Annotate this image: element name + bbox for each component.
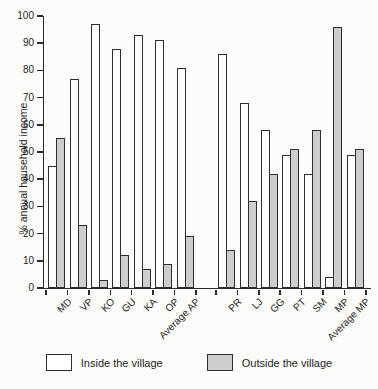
x-axis-tick-mark — [110, 290, 112, 295]
y-axis-tick-label: 40 — [8, 174, 34, 184]
category-slot-ko: KO — [89, 16, 110, 288]
y-axis-tick-mark — [37, 178, 43, 180]
bar-outside-md — [56, 138, 65, 288]
y-axis-tick-label: 90 — [8, 38, 34, 48]
bar-inside-gu — [112, 49, 121, 288]
plot-area: MDVPKOGUKAOPAverage APPRLJGGPTSMMPAverag… — [43, 16, 371, 289]
bar-outside-ka — [142, 269, 151, 288]
y-axis-tick-label: 70 — [8, 93, 34, 103]
y-axis-tick-mark — [37, 206, 43, 208]
y-axis-tick-mark — [37, 124, 43, 126]
y-axis-tick-mark — [37, 260, 43, 262]
category-slot-pt: PT — [280, 16, 301, 288]
x-axis-tick-mark — [45, 290, 47, 295]
y-axis-tick-mark — [37, 97, 43, 99]
x-axis-tick-mark — [344, 290, 346, 295]
y-axis-tick-label: 60 — [8, 120, 34, 130]
legend-item-outside: Outside the village — [207, 354, 333, 371]
y-axis-tick-label: 80 — [8, 65, 34, 75]
bar-chart-figure: % annual household income MDVPKOGUKAOPAv… — [0, 0, 378, 389]
category-slot-mp: MP — [323, 16, 344, 288]
category-slot-pr: PR — [216, 16, 237, 288]
legend-label-inside: Inside the village — [81, 357, 163, 369]
x-axis-tick-mark — [279, 290, 281, 295]
x-axis-tick-mark — [174, 290, 176, 295]
category-slot-vp: VP — [67, 16, 88, 288]
y-axis-tick-mark — [37, 70, 43, 72]
x-axis-tick-mark — [365, 290, 367, 295]
bar-outside-gg — [269, 174, 278, 288]
category-slot-gu: GU — [110, 16, 131, 288]
x-axis-tick-mark — [258, 290, 260, 295]
bar-inside-op — [155, 40, 164, 288]
y-axis-tick-mark — [37, 151, 43, 153]
legend: Inside the village Outside the village — [0, 354, 378, 371]
category-slot-sm: SM — [302, 16, 323, 288]
y-axis-tick-label: 50 — [8, 147, 34, 157]
category-slot-gg: GG — [259, 16, 280, 288]
category-slot-ka: KA — [132, 16, 153, 288]
y-axis-tick-mark — [37, 233, 43, 235]
bar-outside-ko — [99, 280, 108, 288]
x-axis-tick-mark — [237, 290, 239, 295]
bar-inside-ka — [134, 35, 143, 288]
bar-outside-sm — [312, 130, 321, 288]
legend-swatch-outside-icon — [207, 354, 233, 371]
bar-outside-pt — [290, 149, 299, 288]
x-axis-tick-mark — [195, 290, 197, 295]
bar-outside-average-ap — [185, 236, 194, 288]
y-axis-tick-label: 20 — [8, 229, 34, 239]
legend-swatch-inside-icon — [46, 354, 72, 371]
x-axis-tick-mark — [88, 290, 90, 295]
y-axis-tick-mark — [37, 287, 43, 289]
category-slot-average-mp: Average MP — [344, 16, 365, 288]
x-axis-tick-mark — [67, 290, 69, 295]
y-axis-tick-label: 0 — [8, 283, 34, 293]
y-axis-tick-mark — [37, 42, 43, 44]
bar-outside-pr — [226, 250, 235, 288]
bar-outside-mp — [333, 27, 342, 288]
category-slot-average-ap: Average AP — [175, 16, 196, 288]
bar-outside-average-mp — [355, 149, 364, 288]
x-axis-tick-mark — [301, 290, 303, 295]
bar-outside-lj — [248, 201, 257, 288]
y-axis-tick-label: 30 — [8, 201, 34, 211]
x-axis-tick-mark — [152, 290, 154, 295]
y-axis-tick-label: 10 — [8, 256, 34, 266]
x-axis-tick-mark — [322, 290, 324, 295]
bars-row: MDVPKOGUKAOPAverage APPRLJGGPTSMMPAverag… — [44, 16, 371, 288]
bar-outside-vp — [78, 225, 87, 288]
bar-outside-op — [163, 264, 172, 288]
bar-outside-gu — [120, 255, 129, 288]
bar-inside-ko — [91, 24, 100, 288]
x-axis-tick-mark — [131, 290, 133, 295]
group-gap-spacer — [196, 16, 216, 288]
category-slot-md: MD — [46, 16, 67, 288]
category-slot-lj: LJ — [237, 16, 258, 288]
y-axis-tick-label: 100 — [8, 11, 34, 21]
legend-item-inside: Inside the village — [46, 354, 163, 371]
legend-label-outside: Outside the village — [242, 357, 333, 369]
category-slot-op: OP — [153, 16, 174, 288]
x-axis-tick-mark — [215, 290, 217, 295]
y-axis-tick-mark — [37, 15, 43, 17]
